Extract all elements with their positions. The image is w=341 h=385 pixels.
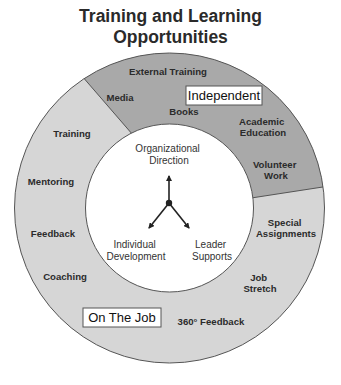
item-feedback: Feedback bbox=[31, 228, 76, 239]
item-training: Training bbox=[53, 128, 90, 139]
independent-label: Independent bbox=[188, 88, 261, 103]
on-the-job-label-box: On The Job bbox=[83, 308, 161, 327]
independent-label-box: Independent bbox=[186, 86, 262, 105]
item-coaching: Coaching bbox=[43, 271, 87, 282]
item-360-feedback: 360° Feedback bbox=[178, 316, 245, 327]
on-the-job-label: On The Job bbox=[88, 310, 156, 325]
arrow-hub-dot bbox=[166, 200, 172, 206]
center-label-leader-supports: Leader Supports bbox=[192, 239, 232, 262]
learning-ring-diagram: External Training Media Books Academic E… bbox=[0, 0, 341, 385]
item-academic-education: Academic Education bbox=[239, 116, 287, 138]
item-media: Media bbox=[106, 92, 134, 103]
item-external-training: External Training bbox=[129, 66, 207, 77]
item-mentoring: Mentoring bbox=[28, 176, 75, 187]
center-label-individual-development: Individual Development bbox=[107, 239, 166, 262]
item-books: Books bbox=[169, 106, 198, 117]
